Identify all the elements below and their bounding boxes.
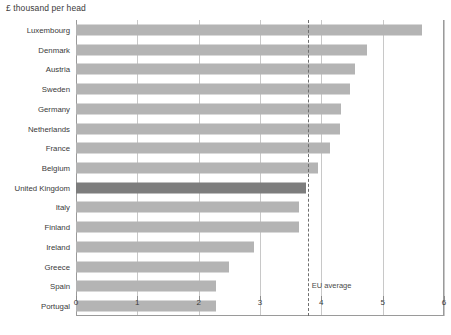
x-tick-label-2: 2	[196, 298, 200, 307]
chart-title: £ thousand per head	[6, 3, 86, 13]
category-label-finland: Finland	[44, 223, 70, 232]
category-label-belgium: Belgium	[42, 164, 70, 173]
bar-row	[76, 20, 444, 40]
x-axis-baseline	[76, 315, 444, 316]
bar-row	[76, 40, 444, 60]
x-tick-label-6: 6	[442, 298, 446, 307]
category-label-denmark: Denmark	[38, 45, 70, 54]
category-label-ireland: Ireland	[46, 242, 70, 251]
bar-row	[76, 257, 444, 277]
bar-sweden	[76, 84, 350, 95]
bar-denmark	[76, 44, 367, 55]
bar-united-kingdom	[76, 182, 306, 193]
bar-austria	[76, 64, 355, 75]
bar-france	[76, 143, 330, 154]
bar-spain	[76, 281, 216, 292]
bar-netherlands	[76, 123, 340, 134]
category-label-france: France	[46, 144, 70, 153]
gridline-6	[444, 20, 445, 316]
bar-row	[76, 198, 444, 218]
category-label-united-kingdom: United Kingdom	[15, 183, 70, 192]
bar-chart: £ thousand per head LuxembourgDenmarkAus…	[0, 0, 451, 335]
x-tick-label-0: 0	[74, 298, 78, 307]
category-label-netherlands: Netherlands	[28, 124, 70, 133]
eu-average-line	[308, 20, 309, 316]
bar-row	[76, 119, 444, 139]
category-label-germany: Germany	[38, 104, 70, 113]
category-label-luxembourg: Luxembourg	[27, 25, 70, 34]
category-label-greece: Greece	[44, 262, 70, 271]
plot-right-edge	[443, 20, 444, 316]
category-label-portugal: Portugal	[41, 302, 70, 311]
bar-greece	[76, 261, 229, 272]
x-tick-label-1: 1	[135, 298, 139, 307]
bar-germany	[76, 103, 341, 114]
bar-portugal	[76, 301, 216, 312]
plot-area: EU average	[76, 20, 444, 316]
category-label-italy: Italy	[56, 203, 70, 212]
category-axis-labels: LuxembourgDenmarkAustriaSwedenGermanyNet…	[0, 20, 74, 316]
bar-row	[76, 138, 444, 158]
bar-row	[76, 158, 444, 178]
bar-belgium	[76, 162, 318, 173]
category-label-sweden: Sweden	[42, 85, 70, 94]
bar-ireland	[76, 241, 254, 252]
bar-row	[76, 59, 444, 79]
x-tick-label-5: 5	[380, 298, 384, 307]
bar-luxembourg	[76, 24, 422, 35]
bar-finland	[76, 222, 299, 233]
x-tick-label-3: 3	[258, 298, 262, 307]
bar-row	[76, 99, 444, 119]
category-label-austria: Austria	[46, 65, 70, 74]
x-tick-label-4: 4	[319, 298, 323, 307]
bar-rows	[76, 20, 444, 316]
eu-average-label: EU average	[312, 281, 352, 290]
bar-row	[76, 79, 444, 99]
bar-row	[76, 237, 444, 257]
bar-row	[76, 217, 444, 237]
bar-row	[76, 277, 444, 297]
category-label-spain: Spain	[50, 282, 70, 291]
bar-row	[76, 178, 444, 198]
bar-italy	[76, 202, 299, 213]
